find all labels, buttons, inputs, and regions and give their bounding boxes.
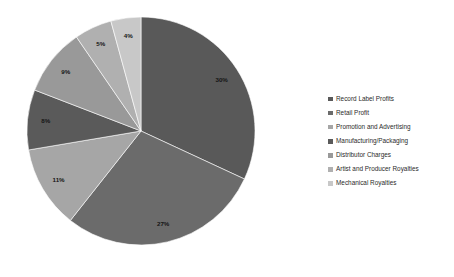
legend-swatch-icon [328, 167, 333, 172]
legend-item[interactable]: Mechanical Royalties [328, 177, 452, 191]
legend-item-label: Manufacturing/Packaging [336, 138, 408, 144]
pie-plot-area: 30%27%11%8%9%5%4% [0, 0, 300, 277]
legend-item[interactable]: Artist and Producer Royalties [328, 162, 452, 176]
legend-item-label: Record Label Profits [336, 96, 394, 102]
legend-item[interactable]: Distributor Charges [328, 148, 452, 162]
legend-item[interactable]: Promotion and Advertising [328, 120, 452, 134]
legend-swatch-icon [328, 97, 333, 102]
pie-svg [0, 0, 300, 277]
legend-swatch-icon [328, 139, 333, 144]
legend-item[interactable]: Record Label Profits [328, 92, 452, 106]
legend-item-label: Promotion and Advertising [336, 124, 411, 130]
pie-slice-group [27, 17, 255, 245]
legend-item-label: Retail Profit [336, 110, 369, 116]
legend-swatch-icon [328, 153, 333, 158]
pie-slice-value-label: 8% [41, 118, 50, 124]
pie-slice-value-label: 4% [124, 33, 133, 39]
legend-item[interactable]: Manufacturing/Packaging [328, 134, 452, 148]
pie-slice-value-label: 5% [96, 41, 105, 47]
pie-slice-value-label: 9% [61, 69, 70, 75]
legend-swatch-icon [328, 181, 333, 186]
chart-legend: Record Label ProfitsRetail ProfitPromoti… [328, 92, 452, 191]
legend-item-label: Artist and Producer Royalties [336, 166, 419, 172]
legend-item[interactable]: Retail Profit [328, 106, 452, 120]
pie-chart-figure: 30%27%11%8%9%5%4% Record Label ProfitsRe… [0, 0, 454, 277]
legend-item-label: Mechanical Royalties [336, 180, 396, 186]
pie-slice-value-label: 27% [157, 221, 169, 227]
legend-item-label: Distributor Charges [336, 152, 391, 158]
legend-swatch-icon [328, 125, 333, 130]
pie-slice-value-label: 30% [215, 76, 227, 82]
pie-slice-value-label: 11% [53, 177, 65, 183]
legend-swatch-icon [328, 111, 333, 116]
